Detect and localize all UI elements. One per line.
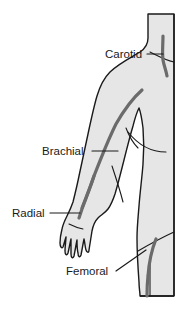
anatomy-diagram: Carotid Brachial Radial Femoral: [0, 0, 186, 309]
label-femoral: Femoral: [66, 265, 108, 277]
body-figure-svg: Carotid Brachial Radial Femoral: [0, 0, 186, 309]
label-carotid: Carotid: [105, 48, 142, 60]
label-radial: Radial: [12, 207, 45, 219]
label-brachial: Brachial: [42, 145, 84, 157]
